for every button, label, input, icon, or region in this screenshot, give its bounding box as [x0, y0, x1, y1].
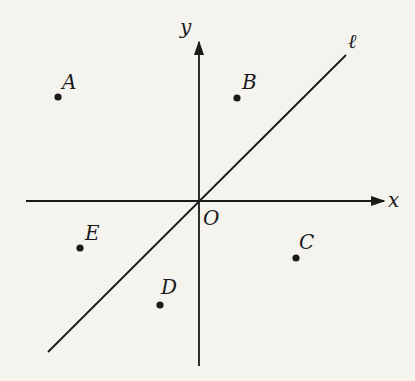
line-l — [48, 55, 346, 352]
point-c-label: C — [299, 230, 314, 254]
point-a: A — [54, 70, 76, 101]
point-b-label: B — [241, 70, 257, 94]
point-d: D — [156, 275, 177, 309]
point-d-label: D — [160, 275, 177, 299]
coordinate-diagram: x y O ℓ A B C D E — [0, 0, 415, 381]
point-e: E — [76, 221, 100, 252]
point-b: B — [233, 70, 256, 102]
point-a-label: A — [60, 70, 76, 94]
line-l-label: ℓ — [348, 29, 357, 53]
point-c: C — [292, 230, 314, 262]
x-axis-label: x — [388, 188, 399, 212]
origin-label: O — [203, 206, 219, 230]
y-axis-label: y — [179, 15, 192, 39]
point-e-label: E — [84, 221, 100, 245]
